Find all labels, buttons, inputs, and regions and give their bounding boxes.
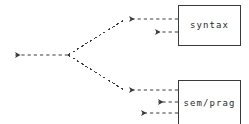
- node-syntax[interactable]: syntax: [178, 5, 241, 46]
- node-sem-prag[interactable]: sem/prag: [178, 80, 241, 124]
- diagram-canvas: syntax sem/prag: [0, 0, 249, 124]
- node-syntax-label: syntax: [190, 21, 229, 30]
- node-sem-prag-label: sem/prag: [183, 99, 235, 108]
- edge-fork-upper-branch: [68, 20, 124, 55]
- edge-fork-lower-branch: [68, 55, 124, 90]
